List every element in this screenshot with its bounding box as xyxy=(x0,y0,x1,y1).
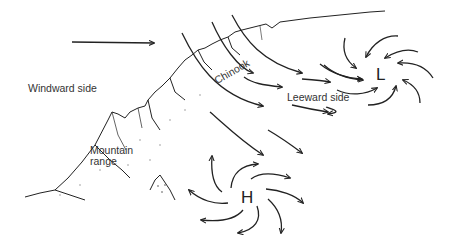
chinook-wind-arrows xyxy=(182,15,362,155)
high-pressure-symbol: H xyxy=(241,189,253,206)
chinook-diagram: Windward side Mountain range Chinook Lee… xyxy=(0,0,457,250)
diagram-drawing xyxy=(0,0,457,250)
mountain-range-label: Mountain range xyxy=(90,145,133,167)
prevailing-wind-arrow xyxy=(72,42,154,43)
low-pressure-symbol: L xyxy=(376,66,385,83)
leeward-side-label: Leeward side xyxy=(287,92,349,103)
mountain-range-label-line2: range xyxy=(90,156,133,167)
mountain-range-illustration xyxy=(25,11,385,200)
mountain-shading xyxy=(59,79,216,196)
windward-side-label: Windward side xyxy=(28,83,97,94)
